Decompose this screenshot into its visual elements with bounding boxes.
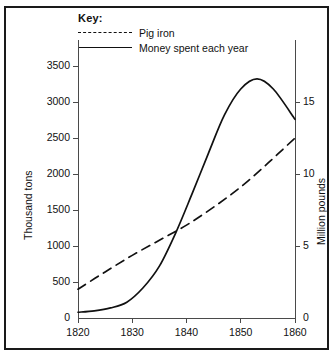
y-right-tick-label: 0: [303, 311, 327, 323]
y-left-tick-label: 1500: [26, 203, 70, 215]
x-tick-label: 1820: [58, 326, 98, 338]
chart-screenshot: Key: Pig iron Money spent each year Thou…: [0, 0, 333, 356]
x-tick-label: 1830: [112, 326, 152, 338]
y-right-tick-label: 10: [303, 167, 327, 179]
x-tick-label: 1840: [167, 326, 207, 338]
y-left-tick-label: 3500: [26, 59, 70, 71]
x-tick-label: 1860: [275, 326, 315, 338]
series-line-pig-iron: [78, 138, 295, 289]
y-left-tick-label: 3000: [26, 95, 70, 107]
y-left-tick-label: 500: [26, 275, 70, 287]
y-left-tick-label: 2000: [26, 167, 70, 179]
y-left-tick-label: 0: [26, 311, 70, 323]
y-right-tick-label: 15: [303, 95, 327, 107]
x-tick-label: 1850: [221, 326, 261, 338]
y-right-tick-label: 5: [303, 239, 327, 251]
series-line-money-spent-each-year: [78, 79, 295, 312]
y-left-tick-label: 2500: [26, 131, 70, 143]
y-left-tick-label: 1000: [26, 239, 70, 251]
